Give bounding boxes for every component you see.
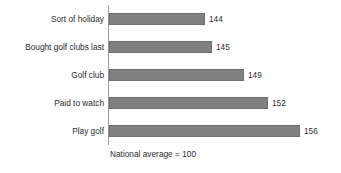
bar-bought-golf-clubs-last: [109, 41, 212, 53]
bar-paid-to-watch: [109, 97, 268, 109]
bar-wrapper: [109, 69, 244, 81]
bar-row: Sort of holiday 144: [0, 5, 341, 33]
value-label-golf-club: 149: [248, 69, 262, 81]
plot-area: Sort of holiday 144 Bought golf clubs la…: [0, 0, 341, 173]
bar-play-golf: [109, 125, 300, 137]
bar-chart: Sort of holiday 144 Bought golf clubs la…: [0, 0, 341, 173]
bar-row: Golf club 149: [0, 61, 341, 89]
value-label-paid-to-watch: 152: [272, 97, 286, 109]
bar-golf-club: [109, 69, 244, 81]
category-label-sort-of-holiday: Sort of holiday: [51, 5, 104, 33]
value-label-sort-of-holiday: 144: [209, 13, 223, 25]
category-label-play-golf: Play golf: [72, 117, 104, 145]
value-label-play-golf: 156: [304, 125, 318, 137]
category-label-paid-to-watch: Paid to watch: [54, 89, 104, 117]
bar-row: Bought golf clubs last 145: [0, 33, 341, 61]
bar-wrapper: [109, 13, 205, 25]
bar-row: Paid to watch 152: [0, 89, 341, 117]
bar-wrapper: [109, 41, 212, 53]
national-average-annotation: National average = 100: [110, 148, 196, 160]
value-label-bought-golf-clubs-last: 145: [216, 41, 230, 53]
bar-row: Play golf 156: [0, 117, 341, 145]
bar-rows: Sort of holiday 144 Bought golf clubs la…: [0, 5, 341, 145]
bar-wrapper: [109, 97, 268, 109]
category-label-bought-golf-clubs-last: Bought golf clubs last: [25, 33, 104, 61]
bar-wrapper: [109, 125, 300, 137]
category-label-golf-club: Golf club: [71, 61, 104, 89]
bar-sort-of-holiday: [109, 13, 205, 25]
